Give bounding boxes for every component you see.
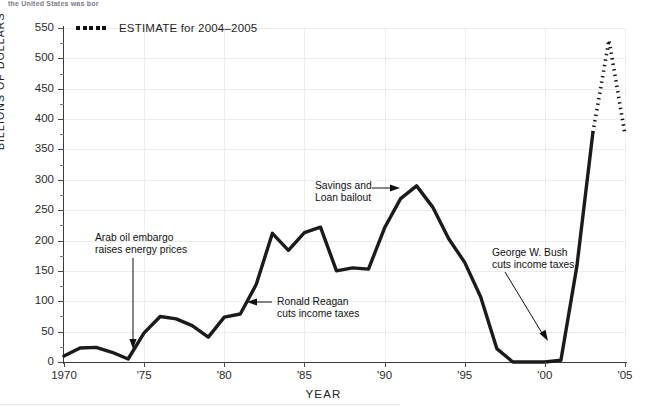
y-axis-minor-tick — [60, 74, 64, 75]
x-axis-tick — [304, 362, 305, 367]
x-axis-label: '95 — [457, 369, 472, 381]
leader-arab-oil-embargo — [129, 258, 136, 349]
x-axis-label: '85 — [297, 369, 312, 381]
y-axis-label: 200 — [0, 234, 54, 246]
y-axis-label: 300 — [0, 173, 54, 185]
y-axis-minor-tick — [60, 43, 64, 44]
y-axis-tick — [58, 271, 64, 272]
x-axis-label: '90 — [377, 369, 392, 381]
y-axis-minor-tick — [60, 195, 64, 196]
y-axis-tick — [58, 332, 64, 333]
y-axis-tick — [58, 119, 64, 120]
x-axis-tick — [625, 362, 626, 367]
chart-canvas: the United States was bor BILLIONS OF DO… — [0, 0, 647, 412]
y-axis-minor-tick — [60, 347, 64, 348]
y-axis-tick — [58, 210, 64, 211]
y-axis-minor-tick — [60, 286, 64, 287]
x-axis-label: '05 — [618, 369, 633, 381]
y-axis-tick — [58, 149, 64, 150]
x-axis-label: '75 — [137, 369, 152, 381]
data-line-actual — [64, 133, 593, 363]
y-axis-label: 350 — [0, 142, 54, 154]
y-axis-tick — [58, 89, 64, 90]
y-axis-tick — [58, 241, 64, 242]
x-axis-tick — [64, 362, 65, 367]
chart-overlay — [0, 0, 647, 412]
x-axis-label: '00 — [537, 369, 552, 381]
y-axis-label: 250 — [0, 203, 54, 215]
data-line-estimate — [593, 40, 625, 134]
x-axis-tick — [144, 362, 145, 367]
y-axis-tick — [58, 301, 64, 302]
footer-rule — [0, 404, 400, 405]
y-axis-label: 500 — [0, 51, 54, 63]
x-axis-tick — [465, 362, 466, 367]
leader-savings-loan — [372, 184, 400, 191]
x-axis-label: '80 — [217, 369, 232, 381]
y-axis-label: 450 — [0, 82, 54, 94]
y-axis-label: 550 — [0, 21, 54, 33]
leader-ronald-reagan — [247, 298, 272, 305]
x-axis-label: 1970 — [51, 369, 77, 381]
y-axis-tick — [58, 28, 64, 29]
y-axis-minor-tick — [60, 225, 64, 226]
y-axis-minor-tick — [60, 134, 64, 135]
y-axis-label: 400 — [0, 112, 54, 124]
y-axis-minor-tick — [60, 104, 64, 105]
y-axis-tick — [58, 180, 64, 181]
y-axis-tick — [58, 58, 64, 59]
x-axis-tick — [385, 362, 386, 367]
x-axis-tick — [224, 362, 225, 367]
y-axis-label: 50 — [0, 325, 54, 337]
y-axis-minor-tick — [60, 316, 64, 317]
leader-george-w-bush — [505, 272, 548, 341]
y-axis-minor-tick — [60, 165, 64, 166]
y-axis-minor-tick — [60, 256, 64, 257]
y-axis-label: 0 — [0, 355, 54, 367]
y-axis-label: 150 — [0, 264, 54, 276]
x-axis-tick — [545, 362, 546, 367]
y-axis-label: 100 — [0, 294, 54, 306]
